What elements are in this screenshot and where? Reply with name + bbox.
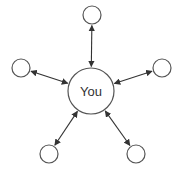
edge-bottom-left-to-center <box>55 111 78 145</box>
edge-bottom-right-to-center <box>105 111 130 146</box>
satellite-node-left <box>12 59 30 77</box>
satellite-node-top <box>83 6 101 24</box>
edge-top-to-center <box>91 25 92 66</box>
satellite-node-bottom-left <box>40 145 58 163</box>
edge-right-to-center <box>114 71 152 83</box>
satellite-node-right <box>153 59 171 77</box>
satellite-node-bottom-right <box>127 145 145 163</box>
edge-left-to-center <box>31 71 68 83</box>
center-node-label: You <box>80 84 102 99</box>
network-diagram: You <box>0 0 179 179</box>
